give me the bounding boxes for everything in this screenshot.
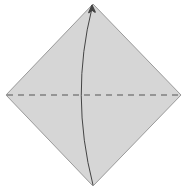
diagram-canvas [0,0,187,192]
origami-diagram [0,0,187,192]
